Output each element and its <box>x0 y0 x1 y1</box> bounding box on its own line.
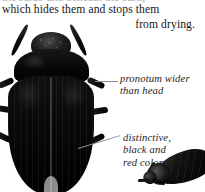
leader-line-pronotum <box>95 81 118 82</box>
pronotum-highlight <box>23 54 46 69</box>
field-guide-page: the scrub and beneath the bark, which hi… <box>0 0 205 192</box>
annotation-coloration-line-3: red coloration <box>123 157 186 169</box>
annotation-coloration: distinctive, black and red coloration <box>123 132 186 169</box>
secondary-antenna-icon <box>138 179 150 182</box>
beetle-dorsal-illustration <box>0 22 112 192</box>
beetle-elytra <box>8 76 94 192</box>
elytra-highlight-right <box>60 80 86 110</box>
annotation-coloration-line-1: distinctive, <box>123 132 186 144</box>
elytra-seam <box>50 78 51 192</box>
elytra-apex-notch <box>44 176 58 192</box>
body-text-line-1: which hides them and stops them <box>2 3 203 18</box>
annotation-coloration-line-2: black and <box>123 144 186 156</box>
illustration-plate: pronotum wider than head distinctive, bl… <box>0 22 205 192</box>
annotation-pronotum: pronotum wider than head <box>120 73 190 98</box>
antenna-left-icon <box>10 24 30 56</box>
elytra-highlight-left <box>16 80 42 110</box>
annotation-pronotum-line-1: pronotum wider <box>120 73 190 85</box>
annotation-pronotum-line-2: than head <box>120 85 190 97</box>
